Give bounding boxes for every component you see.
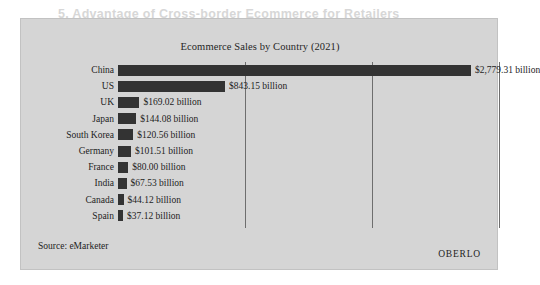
- bar-track: $67.53 billion: [118, 175, 499, 191]
- chart-bar-row: France$80.00 billion: [21, 159, 499, 175]
- value-label: $37.12 billion: [123, 211, 180, 221]
- bar-track: $2,779.31 billion: [118, 62, 540, 78]
- value-label: $144.08 billion: [136, 114, 198, 124]
- category-label: Japan: [21, 114, 118, 124]
- bar: [118, 162, 128, 173]
- value-label: $67.53 billion: [127, 178, 184, 188]
- value-label: $80.00 billion: [128, 162, 185, 172]
- gridline: [499, 62, 500, 228]
- category-label: Canada: [21, 195, 118, 205]
- bar-track: $37.12 billion: [118, 208, 499, 224]
- bar: [118, 97, 139, 108]
- bar: [118, 146, 131, 157]
- chart-bar-row: Japan$144.08 billion: [21, 111, 499, 127]
- category-label: UK: [21, 97, 118, 107]
- chart-bar-row: South Korea$120.56 billion: [21, 127, 499, 143]
- bar: [118, 129, 133, 140]
- chart-bar-row: UK$169.02 billion: [21, 94, 499, 110]
- category-label: France: [21, 162, 118, 172]
- bar-track: $120.56 billion: [118, 127, 499, 143]
- value-label: $2,779.31 billion: [471, 65, 540, 75]
- chart-figure: Ecommerce Sales by Country (2021) China$…: [20, 18, 498, 270]
- bar-track: $44.12 billion: [118, 192, 499, 208]
- bar-track: $80.00 billion: [118, 159, 499, 175]
- category-label: Germany: [21, 146, 118, 156]
- bar: [118, 178, 127, 189]
- value-label: $44.12 billion: [124, 195, 181, 205]
- bar-track: $101.51 billion: [118, 143, 499, 159]
- chart-bar-row: Canada$44.12 billion: [21, 192, 499, 208]
- bar-track: $843.15 billion: [118, 78, 499, 94]
- chart-source: Source: eMarketer: [38, 241, 108, 251]
- chart-bar-row: India$67.53 billion: [21, 175, 499, 191]
- category-label: US: [21, 81, 118, 91]
- chart-bars: China$2,779.31 billionUS$843.15 billionU…: [21, 62, 499, 224]
- bar: [118, 113, 136, 124]
- value-label: $101.51 billion: [131, 146, 193, 156]
- bar-track: $144.08 billion: [118, 111, 499, 127]
- brand-watermark: OBERLO: [438, 249, 481, 259]
- chart-bar-row: Germany$101.51 billion: [21, 143, 499, 159]
- value-label: $843.15 billion: [225, 81, 287, 91]
- category-label: India: [21, 178, 118, 188]
- chart-bar-row: US$843.15 billion: [21, 78, 499, 94]
- chart-title: Ecommerce Sales by Country (2021): [21, 41, 499, 52]
- bar-track: $169.02 billion: [118, 94, 499, 110]
- category-label: Spain: [21, 211, 118, 221]
- chart-bar-row: Spain$37.12 billion: [21, 208, 499, 224]
- bar: [118, 65, 471, 76]
- category-label: South Korea: [21, 130, 118, 140]
- value-label: $169.02 billion: [139, 97, 201, 107]
- category-label: China: [21, 65, 118, 75]
- value-label: $120.56 billion: [133, 130, 195, 140]
- chart-bar-row: China$2,779.31 billion: [21, 62, 499, 78]
- bar: [118, 81, 225, 92]
